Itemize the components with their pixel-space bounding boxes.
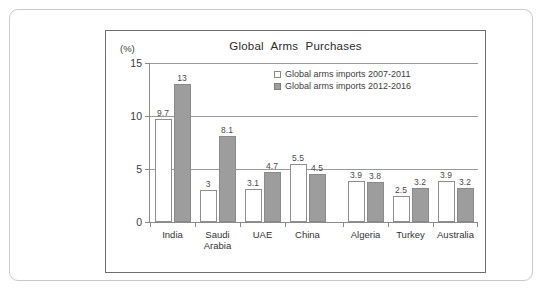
bar[interactable] <box>245 189 262 222</box>
x-axis-label-line: Turkey <box>388 229 433 240</box>
bar-value-label: 4.7 <box>266 161 278 171</box>
bar[interactable] <box>264 172 281 222</box>
x-tick-cell <box>433 222 478 227</box>
bar-value-label: 3.2 <box>414 177 426 187</box>
bar-wrapper: 3.8 <box>367 63 384 222</box>
bar-value-label: 3.9 <box>350 170 362 180</box>
x-tick-cell <box>343 222 388 227</box>
bar[interactable] <box>367 182 384 222</box>
bar-value-label: 5.5 <box>292 153 304 163</box>
bar[interactable] <box>412 188 429 222</box>
x-axis-label-china: China <box>285 229 330 251</box>
bar-group-algeria: 3.93.8 <box>343 63 388 222</box>
plot-area: 151050 9.71338.13.14.75.54.53.93.82.53.2… <box>150 63 478 222</box>
bar[interactable] <box>174 84 191 222</box>
x-tick-cell <box>285 222 330 227</box>
x-axis-label-algeria: Algeria <box>343 229 388 251</box>
bar-group-india: 9.713 <box>150 63 195 222</box>
x-axis-label-line: Arabia <box>195 240 240 251</box>
x-axis-label-line: Australia <box>433 229 478 240</box>
x-axis-label-line: Algeria <box>343 229 388 240</box>
bar-wrapper: 3.2 <box>457 63 474 222</box>
x-axis-ticks <box>150 222 478 227</box>
bar-wrapper: 3 <box>200 63 217 222</box>
bar[interactable] <box>348 181 365 222</box>
y-tick-label-0: 0 <box>136 216 142 228</box>
y-axis-unit-label: (%) <box>120 43 135 54</box>
x-tick-cell <box>240 222 285 227</box>
bar-wrapper: 13 <box>174 63 191 222</box>
x-tick-cell <box>195 222 240 227</box>
x-axis-label-line: Saudi <box>195 229 240 240</box>
bar-wrapper: 8.1 <box>219 63 236 222</box>
bar-groups: 9.71338.13.14.75.54.53.93.82.53.23.93.2 <box>150 63 478 222</box>
bar-value-label: 3.1 <box>247 178 259 188</box>
bar-wrapper: 3.9 <box>348 63 365 222</box>
bar-value-label: 3.9 <box>440 170 452 180</box>
bar-group-australia: 3.93.2 <box>433 63 478 222</box>
x-tick-cell <box>388 222 433 227</box>
y-tick-label-10: 10 <box>130 110 142 122</box>
x-axis-label-line: China <box>285 229 330 240</box>
x-axis-label-australia: Australia <box>433 229 478 251</box>
bar-value-label: 4.5 <box>311 163 323 173</box>
bar-wrapper: 3.9 <box>438 63 455 222</box>
bar-wrapper: 2.5 <box>393 63 410 222</box>
bar-wrapper: 5.5 <box>290 63 307 222</box>
bar[interactable] <box>309 174 326 222</box>
bar[interactable] <box>457 188 474 222</box>
bar-value-label: 13 <box>177 73 186 83</box>
bar-wrapper: 3.2 <box>412 63 429 222</box>
x-tick-cell <box>150 222 195 227</box>
bar-value-label: 2.5 <box>395 185 407 195</box>
bar-value-label: 3.8 <box>369 171 381 181</box>
chart-container: Global Arms Purchases (%) Global arms im… <box>105 30 486 273</box>
bar-group-saudi-arabia: 38.1 <box>195 63 240 222</box>
x-axis-label-india: India <box>150 229 195 251</box>
x-axis-label-line: India <box>150 229 195 240</box>
bar-wrapper: 9.7 <box>155 63 172 222</box>
bar-wrapper: 3.1 <box>245 63 262 222</box>
bar-wrapper: 4.5 <box>309 63 326 222</box>
y-tick-label-5: 5 <box>136 163 142 175</box>
bar-value-label: 9.7 <box>157 108 169 118</box>
bar-group-turkey: 2.53.2 <box>388 63 433 222</box>
x-axis-label-uae: UAE <box>240 229 285 251</box>
y-tick-label-15: 15 <box>130 57 142 69</box>
bar-group-china: 5.54.5 <box>285 63 330 222</box>
bar[interactable] <box>438 181 455 222</box>
bar[interactable] <box>155 119 172 222</box>
x-axis-label-turkey: Turkey <box>388 229 433 251</box>
bar[interactable] <box>393 196 410 223</box>
page-frame: Global Arms Purchases (%) Global arms im… <box>9 9 533 281</box>
chart-title: Global Arms Purchases <box>106 40 485 52</box>
x-axis-label-saudi-arabia: SaudiArabia <box>195 229 240 251</box>
bar[interactable] <box>200 190 217 222</box>
bar[interactable] <box>219 136 236 222</box>
bar-value-label: 3.2 <box>459 177 471 187</box>
bar-value-label: 8.1 <box>221 125 233 135</box>
x-axis-labels: IndiaSaudiArabiaUAEChinaAlgeriaTurkeyAus… <box>150 229 478 251</box>
x-axis-label-line: UAE <box>240 229 285 240</box>
bar-wrapper: 4.7 <box>264 63 281 222</box>
bar-group-uae: 3.14.7 <box>240 63 285 222</box>
bar-value-label: 3 <box>206 179 211 189</box>
bar[interactable] <box>290 164 307 222</box>
